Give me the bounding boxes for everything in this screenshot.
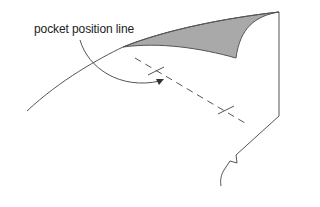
leader-arrow-line xyxy=(80,40,160,83)
pocket-position-line xyxy=(135,58,245,123)
folded-corner-shading xyxy=(123,12,279,58)
pocket-position-label: pocket position line xyxy=(34,22,134,36)
placement-mark-2 xyxy=(218,106,234,114)
